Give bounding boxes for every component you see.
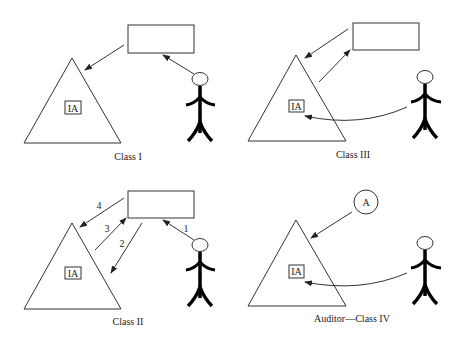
person-icon — [411, 71, 441, 139]
arrow-auditor-to-org — [311, 212, 352, 238]
person-icon — [186, 73, 215, 142]
arrow-org-to-box — [319, 50, 350, 82]
organization-triangle — [248, 55, 346, 141]
panel-label: Auditor—Class IV — [314, 313, 391, 324]
ia-label: IA — [68, 268, 79, 279]
arrow-person-to-box — [163, 55, 194, 74]
panel-class-3: IA Class III — [248, 23, 441, 160]
arrow-number-3: 3 — [105, 223, 110, 234]
diagram-canvas: IA Class I IA Class III IA — [0, 0, 468, 341]
ia-label: IA — [291, 266, 302, 277]
arrow-box-to-org — [305, 29, 348, 58]
panel-class-1: IA Class I — [24, 25, 215, 162]
person-icon — [186, 239, 215, 307]
organization-triangle — [24, 223, 121, 309]
ia-label: IA — [291, 101, 302, 112]
organization-triangle — [248, 220, 346, 306]
arrow-4-box-to-org — [80, 198, 124, 227]
arrow-2-box-to-org — [111, 223, 142, 273]
arrow-1-person-to-box — [163, 220, 194, 240]
arrow-box-to-org — [85, 45, 124, 70]
arrow-number-4: 4 — [97, 200, 102, 211]
person-icon — [411, 237, 441, 305]
auditor-label: A — [362, 197, 370, 208]
panel-label: Class II — [113, 316, 144, 327]
arrow-number-1: 1 — [184, 223, 189, 234]
ia-label: IA — [68, 103, 79, 114]
arrow-person-to-ia — [305, 107, 407, 120]
panel-class-4: IA A Auditor—Class IV — [248, 190, 441, 324]
arrow-number-2: 2 — [120, 238, 125, 249]
panel-class-2: IA 1 2 3 4 Class II — [24, 191, 215, 327]
external-box — [353, 23, 419, 50]
panel-label: Class III — [336, 149, 370, 160]
external-box — [128, 191, 194, 218]
panel-label: Class I — [114, 151, 142, 162]
external-box — [128, 25, 194, 53]
arrow-person-to-ia — [305, 273, 407, 286]
